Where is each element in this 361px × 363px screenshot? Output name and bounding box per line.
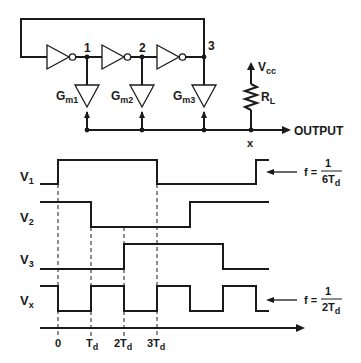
waveform-v2 [40,202,269,227]
gm1-label: Gm1 [56,89,78,105]
tick-td: Td [86,337,98,352]
node-2-label: 2 [139,41,146,55]
node-x-label: x [247,137,254,149]
gm3-label: Gm3 [173,89,195,105]
output-arrow-icon [282,126,291,134]
label-v3: V3 [20,252,34,269]
load-resistor [245,70,257,130]
svg-text:6Td: 6Td [322,173,340,188]
label-v1: V1 [20,169,34,186]
freq-annotation-vx: f = 1 2Td [266,285,342,316]
node-3-label: 3 [208,39,215,53]
svg-text:1: 1 [325,285,331,297]
waveform-v3 [40,244,269,269]
tick-2td: 2Td [114,337,132,352]
waveform-vx [40,286,269,311]
label-v2: V2 [20,210,34,227]
node-1-label: 1 [84,41,91,55]
svg-text:f =: f = [304,294,317,306]
output-label: OUTPUT [294,124,344,138]
inverter-2 [102,45,131,69]
vcc-label: Vcc [258,60,276,76]
svg-text:2Td: 2Td [322,301,340,316]
freq-annotation-v1: f = 1 6Td [266,157,342,188]
gm3-transconductor [192,85,216,107]
tick-3td: 3Td [147,337,165,352]
gm1-transconductor [75,85,99,107]
waveform-v1 [40,160,269,184]
vcc-arrow-icon [247,62,255,70]
timing-diagram: V1 V2 V3 Vx 0 Td 2Td 3Td f = 1 6Td f = 1… [20,157,342,352]
tick-0: 0 [55,337,61,349]
inverter-3 [157,45,186,69]
left-arrow-icon [266,297,274,303]
ring-oscillator-figure: 1 2 3 Gm1 Gm2 Gm3 OUTPUT x [0,0,361,363]
rl-label: RL [261,90,276,106]
left-arrow-icon [266,169,274,175]
svg-text:1: 1 [325,157,331,169]
ring-oscillator-circuit: 1 2 3 Gm1 Gm2 Gm3 OUTPUT x [21,19,344,149]
gm-output-arrows [84,111,207,130]
label-vx: Vx [20,293,34,310]
gm2-label: Gm2 [111,89,133,105]
time-axis-arrow-icon [296,324,305,332]
gm2-transconductor [130,85,154,107]
inverter-1 [47,45,76,69]
svg-text:f =: f = [304,166,317,178]
